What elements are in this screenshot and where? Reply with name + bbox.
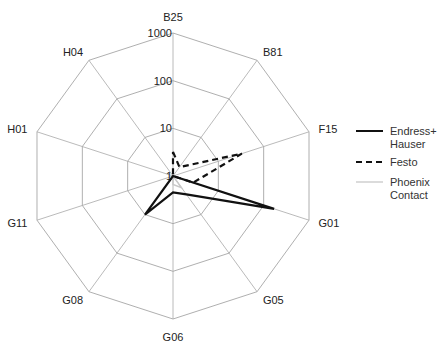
axis-label-b81: B81: [263, 46, 283, 58]
radar-chart: 1101001000 B25B81F15G01G05G06G08G11H01H0…: [0, 0, 446, 350]
tick-label: 100: [154, 75, 172, 87]
legend-label: Contact: [390, 189, 428, 201]
legend-item-endress-hauser: Endress+ Hauser: [356, 125, 437, 150]
axis-label-g05: G05: [263, 294, 284, 306]
series-festo: [173, 152, 242, 183]
legend-item-phoenix-contact: Phoenix Contact: [356, 176, 430, 201]
tick-label: 10: [160, 122, 172, 134]
axis-label-b25: B25: [163, 11, 183, 23]
legend-label: Hauser: [390, 138, 426, 150]
axis-label-g06: G06: [163, 331, 184, 343]
axis-label-g01: G01: [319, 217, 340, 229]
axis-spoke: [37, 176, 173, 220]
legend-label: Endress+: [390, 125, 437, 137]
legend: Endress+ Hauser Festo Phoenix Contact: [356, 125, 437, 201]
tick-label: 1000: [148, 27, 172, 39]
tick-labels: 1101001000: [148, 27, 172, 182]
axis-label-g11: G11: [8, 217, 28, 229]
axis-label-g08: G08: [62, 294, 83, 306]
axis-label-h01: H01: [7, 123, 27, 135]
legend-item-festo: Festo: [356, 156, 418, 168]
radar-plot: 1101001000 B25B81F15G01G05G06G08G11H01H0…: [0, 0, 446, 350]
series-layer: [145, 152, 274, 215]
axis-label-f15: F15: [319, 123, 338, 135]
axis-label-h04: H04: [63, 46, 83, 58]
legend-label: Festo: [390, 156, 418, 168]
legend-label: Phoenix: [390, 176, 430, 188]
series-endress-hauser: [145, 176, 274, 215]
axis-spoke: [37, 132, 173, 176]
